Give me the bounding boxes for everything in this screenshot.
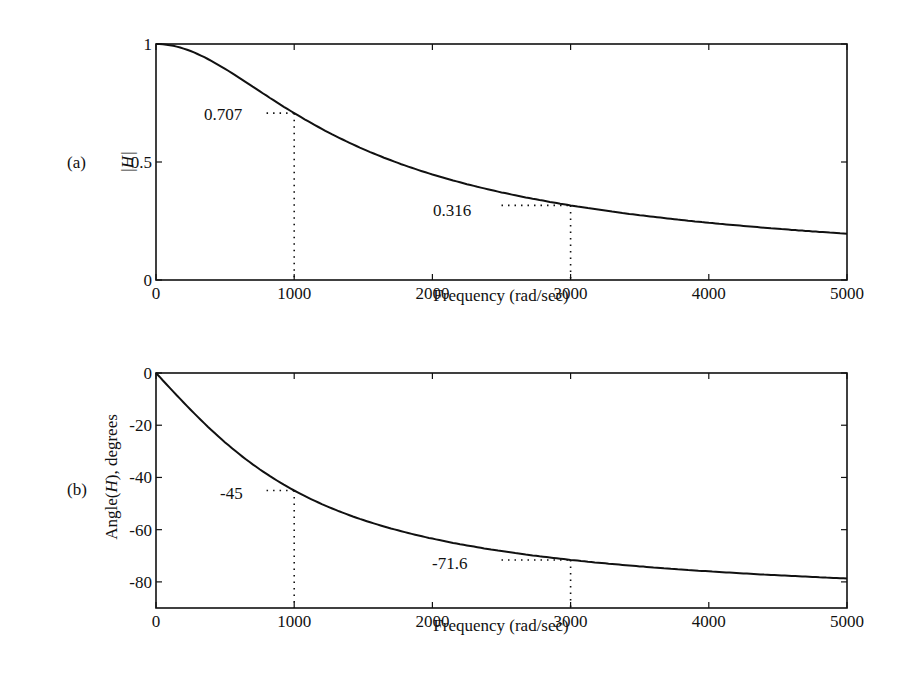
- plot-b-phase-curve: [156, 373, 847, 579]
- panel-label-b: (b): [67, 480, 87, 499]
- y-tick-label: -20: [129, 416, 152, 435]
- x-tick-label: 1000: [277, 612, 311, 631]
- plot-a: 01000200030004000500000.51 (a) |H| Frequ…: [67, 35, 864, 305]
- plot-a-annotation-0707: 0.707: [204, 105, 243, 124]
- x-tick-label: 5000: [830, 284, 864, 303]
- plot-a-xlabel: Frequency (rad/sec): [433, 286, 568, 305]
- x-tick-label: 4000: [692, 284, 726, 303]
- ylabel-part: Angle(: [102, 492, 121, 540]
- x-tick-label: 0: [152, 612, 161, 631]
- x-tick-label: 4000: [692, 612, 726, 631]
- plot-b-ylabel: Angle(H), degrees: [102, 414, 121, 540]
- x-tick-label: 0: [152, 284, 161, 303]
- plot-b-annotation-716: -71.6: [432, 554, 467, 573]
- plot-a-annotation-0316: 0.316: [433, 201, 471, 220]
- y-tick-label: -60: [129, 521, 152, 540]
- plot-a-frame: [156, 44, 847, 280]
- y-tick-label: -80: [129, 573, 152, 592]
- x-tick-label: 1000: [277, 284, 311, 303]
- plot-b-annotation-lines: [267, 491, 571, 609]
- plot-b-annotation-45: -45: [220, 484, 243, 503]
- ylabel-part: ), degrees: [102, 414, 121, 480]
- plot-a-ticks: 01000200030004000500000.51: [131, 35, 864, 303]
- x-tick-label: 5000: [830, 612, 864, 631]
- y-tick-label: 1: [144, 35, 153, 54]
- panel-label-a: (a): [67, 153, 86, 172]
- y-tick-label: 0: [144, 271, 153, 290]
- figure: 01000200030004000500000.51 (a) |H| Frequ…: [0, 0, 912, 685]
- y-tick-label: 0: [144, 364, 153, 383]
- plot-a-ylabel: |H|: [118, 151, 137, 173]
- plot-b: 0100020003000400050000-20-40-60-80 (b) A…: [67, 364, 864, 635]
- plot-b-xlabel: Frequency (rad/sec): [433, 616, 568, 635]
- y-tick-label: -40: [129, 468, 152, 487]
